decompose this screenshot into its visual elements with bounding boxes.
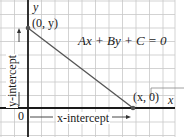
y-intercept-dot — [26, 26, 31, 31]
y-axis-label: y — [33, 1, 38, 13]
y-intercept-label: y-intercept — [6, 54, 18, 108]
x-axis-label: x — [168, 94, 173, 106]
x-intercept-point-label: (x, 0) — [133, 91, 159, 103]
y-intercept-label-wrap: y-intercept — [6, 108, 20, 137]
y-intercept-point-label: (0, y) — [32, 17, 58, 29]
line-equation: Ax + By + C = 0 — [78, 34, 166, 47]
x-intercept-dot — [131, 106, 136, 111]
intercept-diagram: y x 0 (0, y) (x, 0) Ax + By + C = 0 x-in… — [0, 0, 184, 137]
x-intercept-label: x-intercept — [56, 112, 110, 124]
